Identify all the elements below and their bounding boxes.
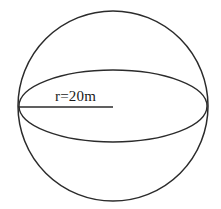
equator-ellipse xyxy=(19,70,207,142)
sphere-figure: r=20m xyxy=(0,0,221,209)
radius-label: r=20m xyxy=(55,88,96,104)
sphere-diagram: r=20m xyxy=(0,0,221,209)
sphere-outline-circle xyxy=(18,11,208,201)
